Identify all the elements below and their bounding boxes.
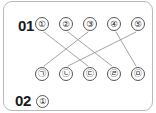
matching-node-top-3[interactable]: ③ [83,17,97,31]
matching-node-bottom-4[interactable]: ㉣ [107,67,121,81]
matching-node-top-4[interactable]: ④ [107,17,121,31]
connection-line-5 [68,32,136,66]
connection-line-1 [44,32,88,66]
connection-lines [44,32,136,66]
matching-node-top-1[interactable]: ① [35,17,49,31]
question-number-02: 02① [15,93,49,108]
matching-node-top-2[interactable]: ② [59,17,73,31]
matching-node-bottom-3[interactable]: ㉢ [83,67,97,81]
matching-node-bottom-2[interactable]: ㉡ [59,67,73,81]
question-number-01-text: 01 [18,17,34,34]
question-number-01: 01 [18,18,34,33]
matching-node-bottom-5[interactable]: ㉤ [131,67,145,81]
question-02-answer-choice[interactable]: ① [36,95,49,108]
connection-line-2 [68,32,112,66]
connection-line-3 [44,32,88,66]
matching-node-bottom-1[interactable]: ㉠ [35,67,49,81]
connection-line-4 [116,32,136,66]
question-number-02-text: 02 [15,92,31,109]
question-card: 01 02① ① ② ③ ④ ⑤ ㉠ ㉡ ㉢ ㉣ ㉤ [3,1,153,111]
matching-node-top-5[interactable]: ⑤ [131,17,145,31]
